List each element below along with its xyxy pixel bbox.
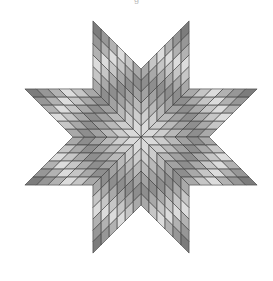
lone-star-quilt-figure — [0, 0, 273, 281]
eight-pointed-star — [25, 21, 257, 253]
